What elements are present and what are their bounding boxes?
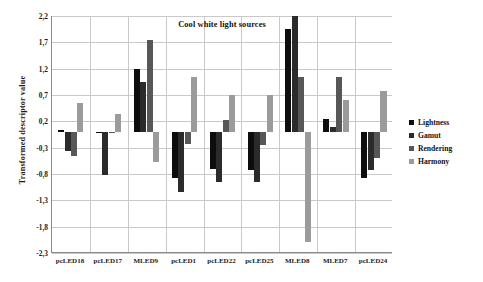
legend-item[interactable]: Harmony [409, 155, 481, 168]
y-tick-label: -1,8 [36, 222, 48, 231]
x-tick-label: pcLED1 [165, 257, 203, 265]
group-separator [279, 16, 280, 252]
x-tick-label: pcLED24 [354, 257, 392, 265]
y-tick-label: -0,3 [36, 143, 48, 152]
bar [71, 132, 77, 156]
bar [147, 40, 153, 132]
legend-swatch-icon [409, 146, 414, 151]
legend-item-label: Rendering [418, 144, 452, 153]
legend-swatch-icon [409, 133, 414, 138]
bar [185, 132, 191, 145]
bar [96, 132, 102, 133]
bar [248, 132, 254, 170]
y-tick-label: -2,3 [36, 249, 48, 258]
y-axis-title: Transformed descriptor value [18, 30, 27, 230]
x-tick-label: pcLED18 [51, 257, 89, 265]
bar [58, 130, 64, 132]
y-tick-label: 1,7 [39, 38, 48, 47]
group-separator [241, 16, 242, 252]
bar [172, 132, 178, 178]
legend-item-label: Gamut [418, 131, 441, 140]
bar [361, 132, 367, 178]
legend-item[interactable]: Rendering [409, 142, 481, 155]
bar [260, 132, 266, 145]
legend-swatch-icon [409, 120, 414, 125]
bar [140, 82, 146, 132]
bar [178, 132, 184, 192]
legend-item[interactable]: Gamut [409, 129, 481, 142]
y-tick-label: -0,8 [36, 170, 48, 179]
gridline: -1,8 [52, 227, 392, 228]
chart-title: Cool white light sources [52, 20, 392, 29]
legend-item-label: Lightness [418, 118, 449, 127]
bar [323, 119, 329, 132]
gridline: 1,2 [52, 69, 392, 70]
bar [298, 77, 304, 132]
bar [305, 132, 311, 243]
y-tick-label: -1,3 [36, 196, 48, 205]
bar [336, 77, 342, 132]
group-separator [204, 16, 205, 252]
group-separator [166, 16, 167, 252]
gridline: 1,7 [52, 42, 392, 43]
bar [223, 120, 229, 132]
group-separator [128, 16, 129, 252]
legend-swatch-icon [409, 159, 414, 164]
gridline: 2,2 [52, 16, 392, 17]
gridline: -1,3 [52, 200, 392, 201]
y-tick-label: 2,2 [39, 12, 48, 21]
x-tick-label: MLED9 [127, 257, 165, 265]
bar [285, 29, 291, 132]
gridline: -2,3 [52, 253, 392, 254]
group-separator [355, 16, 356, 252]
legend: LightnessGamutRenderingHarmony [409, 116, 481, 168]
legend-item[interactable]: Lightness [409, 116, 481, 129]
y-tick-label: 0,7 [39, 91, 48, 100]
bar [343, 100, 349, 132]
bar [216, 132, 222, 182]
x-tick-label: MLED8 [278, 257, 316, 265]
x-tick-label: pcLED22 [203, 257, 241, 265]
x-tick-label: pcLED25 [240, 257, 278, 265]
plot-area: 2,21,71,20,70,2-0,3-0,8-1,3-1,8-2,3 Cool… [51, 16, 392, 253]
bar-chart: Transformed descriptor value 2,21,71,20,… [0, 0, 483, 282]
legend-item-label: Harmony [418, 157, 449, 166]
group-separator [317, 16, 318, 252]
bar [102, 132, 108, 175]
bar [380, 91, 386, 132]
group-separator [90, 16, 91, 252]
x-tick-label: pcLED17 [89, 257, 127, 265]
bar [210, 132, 216, 169]
bar [368, 132, 374, 170]
bar [330, 127, 336, 132]
bar [153, 132, 159, 162]
bar [267, 95, 273, 132]
y-tick-label: 1,2 [39, 64, 48, 73]
bar [65, 132, 71, 151]
bar [292, 16, 298, 132]
bar [254, 132, 260, 182]
bar [374, 132, 380, 158]
bar [115, 114, 121, 132]
bar [229, 95, 235, 132]
bar [134, 69, 140, 132]
y-tick-label: 0,2 [39, 117, 48, 126]
bar [77, 103, 83, 131]
bar [109, 132, 115, 133]
x-tick-label: MLED7 [316, 257, 354, 265]
bar [191, 77, 197, 132]
